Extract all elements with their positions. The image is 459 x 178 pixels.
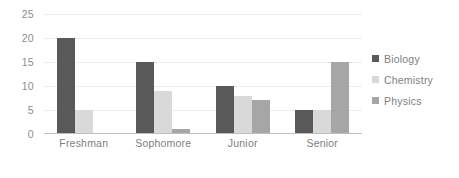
bar-group xyxy=(203,14,283,134)
y-tick-label: 5 xyxy=(28,104,34,116)
bar xyxy=(216,86,234,134)
x-tick-label: Sophomore xyxy=(135,137,191,149)
legend-label: Biology xyxy=(384,53,420,65)
y-axis: 0510152025 xyxy=(0,14,40,134)
bar xyxy=(252,100,270,134)
x-axis-line xyxy=(44,133,362,134)
bar xyxy=(295,110,313,134)
x-tick-label: Senior xyxy=(306,137,338,149)
legend-swatch-icon xyxy=(372,55,379,62)
bar-group xyxy=(283,14,363,134)
legend-swatch-icon xyxy=(372,76,379,83)
bar xyxy=(313,110,331,134)
bar xyxy=(234,96,252,134)
legend-label: Physics xyxy=(384,95,422,107)
bar xyxy=(57,38,75,134)
bar-group xyxy=(44,14,124,134)
bar xyxy=(154,91,172,134)
bar-group xyxy=(124,14,204,134)
bars-layer xyxy=(44,14,362,134)
x-axis: FreshmanSophomoreJuniorSenior xyxy=(44,137,362,157)
x-tick-label: Junior xyxy=(228,137,258,149)
y-tick-label: 10 xyxy=(22,80,34,92)
x-tick-label: Freshman xyxy=(59,137,108,149)
y-tick-label: 15 xyxy=(22,56,34,68)
bar-chart: 0510152025 FreshmanSophomoreJuniorSenior… xyxy=(0,0,459,178)
legend-item[interactable]: Chemistry xyxy=(372,69,458,90)
bar xyxy=(136,62,154,134)
legend-label: Chemistry xyxy=(384,74,433,86)
legend-item[interactable]: Biology xyxy=(372,48,458,69)
legend-swatch-icon xyxy=(372,97,379,104)
chart-legend: BiologyChemistryPhysics xyxy=(372,48,458,111)
plot-area xyxy=(44,14,362,134)
y-tick-label: 0 xyxy=(28,128,34,140)
legend-item[interactable]: Physics xyxy=(372,90,458,111)
y-tick-label: 25 xyxy=(22,8,34,20)
bar xyxy=(75,110,93,134)
y-tick-label: 20 xyxy=(22,32,34,44)
bar xyxy=(331,62,349,134)
